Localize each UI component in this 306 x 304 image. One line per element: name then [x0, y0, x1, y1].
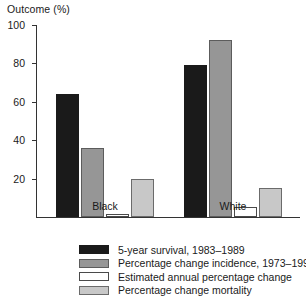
y-tick-60: 60 [32, 102, 37, 103]
legend-label-3: Percentage change mortality [118, 285, 252, 296]
y-tick-label-80: 80 [13, 58, 25, 69]
y-axis-line [36, 25, 37, 218]
bar-black-series-2 [106, 214, 129, 217]
legend-swatch-2 [79, 272, 109, 281]
y-tick-label-60: 60 [13, 97, 25, 108]
y-tick-80: 80 [32, 63, 37, 64]
bar-white-series-0 [184, 65, 207, 217]
plot-area: 20406080100 [36, 25, 300, 217]
bar-white-series-3 [259, 188, 282, 217]
legend-label-1: Percentage change incidence, 1973–1990 [118, 258, 306, 269]
y-tick-40: 40 [32, 140, 37, 141]
legend-item-3: Percentage change mortality [79, 284, 301, 298]
legend-swatch-3 [79, 286, 109, 295]
bar-black-series-0 [56, 94, 79, 217]
legend-label-0: 5-year survival, 1983–1989 [118, 245, 245, 256]
legend-label-2: Estimated annual percentage change [118, 272, 292, 283]
bar-chart: Outcome (%) 20406080100 BlackWhite 5-yea… [0, 0, 306, 304]
y-tick-label-100: 100 [7, 20, 25, 31]
x-axis-label-white: White [220, 200, 247, 212]
legend-swatch-0 [79, 245, 109, 254]
x-axis-label-black: Black [92, 200, 118, 212]
y-tick-100: 100 [32, 25, 37, 26]
y-tick-label-40: 40 [13, 135, 25, 146]
y-tick-20: 20 [32, 179, 37, 180]
legend-item-0: 5-year survival, 1983–1989 [79, 243, 301, 257]
legend-item-2: Estimated annual percentage change [79, 270, 301, 284]
chart-legend: 5-year survival, 1983–1989Percentage cha… [79, 243, 301, 297]
legend-swatch-1 [79, 259, 109, 268]
y-tick-label-20: 20 [13, 173, 25, 184]
bar-white-series-1 [209, 40, 232, 217]
bar-black-series-3 [131, 179, 154, 217]
x-axis-line [36, 217, 300, 218]
legend-item-1: Percentage change incidence, 1973–1990 [79, 257, 301, 271]
y-axis-title: Outcome (%) [7, 3, 70, 15]
